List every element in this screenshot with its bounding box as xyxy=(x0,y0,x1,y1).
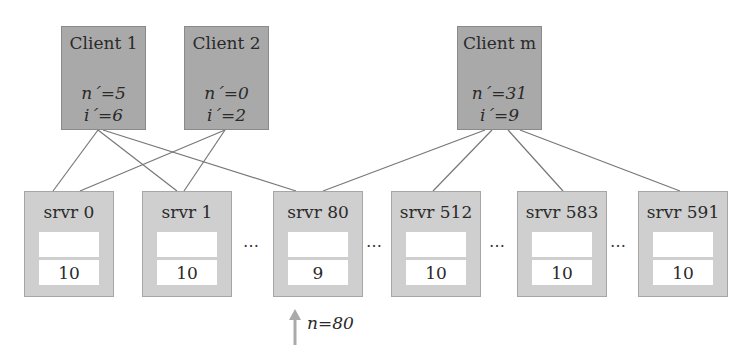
client-1-box: Client 1 n´=5 i´=6 xyxy=(61,26,146,130)
srvr-0-box: srvr 0 10 xyxy=(24,191,114,297)
link-line xyxy=(98,130,177,191)
client-title: Client m xyxy=(458,33,541,53)
ellipsis: … xyxy=(489,232,505,251)
link-line xyxy=(508,130,563,191)
client-n-prime: n´=5 xyxy=(62,82,145,104)
ellipsis: … xyxy=(610,232,626,251)
link-line xyxy=(53,130,98,191)
client-title: Client 2 xyxy=(185,33,268,53)
link-line xyxy=(323,130,485,191)
srvr-512-box: srvr 512 10 xyxy=(391,191,481,297)
srvr-591-box: srvr 591 10 xyxy=(638,191,728,297)
client-n-prime: n´=31 xyxy=(458,82,541,104)
server-title: srvr 1 xyxy=(143,202,231,222)
client-n-prime: n´=0 xyxy=(185,82,268,104)
server-slot-bottom: 10 xyxy=(39,260,99,285)
server-title: srvr 80 xyxy=(274,202,362,222)
server-slot-bottom: 10 xyxy=(406,260,466,285)
pointer-arrow-icon xyxy=(289,309,301,345)
srvr-583-box: srvr 583 10 xyxy=(517,191,607,297)
client-title: Client 1 xyxy=(62,33,145,53)
ellipsis: … xyxy=(243,232,259,251)
client-i-prime: i´=9 xyxy=(458,104,541,126)
server-slot-top xyxy=(157,232,217,257)
ellipsis: … xyxy=(366,232,382,251)
client-i-prime: i´=2 xyxy=(185,104,268,126)
link-line xyxy=(520,130,680,191)
server-slot-top xyxy=(653,232,713,257)
server-title: srvr 591 xyxy=(639,202,727,222)
srvr-1-box: srvr 1 10 xyxy=(142,191,232,297)
server-title: srvr 0 xyxy=(25,202,113,222)
srvr-80-box: srvr 80 9 xyxy=(273,191,363,297)
server-slot-top xyxy=(288,232,348,257)
server-title: srvr 512 xyxy=(392,202,480,222)
client-i-prime: i´=6 xyxy=(62,104,145,126)
server-slot-bottom: 10 xyxy=(653,260,713,285)
server-slot-bottom: 10 xyxy=(532,260,592,285)
link-line xyxy=(433,130,492,191)
server-slot-top xyxy=(532,232,592,257)
server-slot-top xyxy=(39,232,99,257)
server-title: srvr 583 xyxy=(518,202,606,222)
server-slot-top xyxy=(406,232,466,257)
client-m-box: Client m n´=31 i´=9 xyxy=(457,26,542,130)
pointer-label: n=80 xyxy=(307,313,354,333)
server-slot-bottom: 10 xyxy=(157,260,217,285)
link-line xyxy=(103,130,296,191)
link-line xyxy=(80,130,225,191)
client-2-box: Client 2 n´=0 i´=2 xyxy=(184,26,269,130)
server-slot-bottom: 9 xyxy=(288,260,348,285)
